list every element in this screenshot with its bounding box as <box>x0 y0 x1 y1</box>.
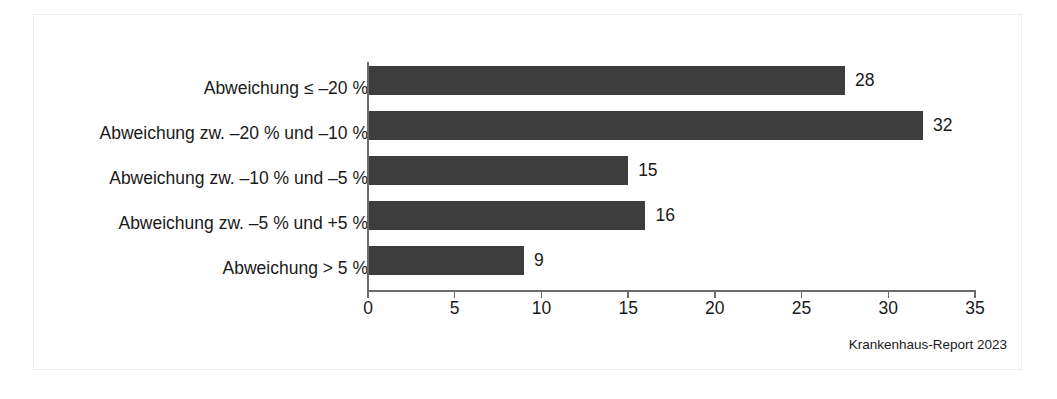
attribution-text: Krankenhaus-Report 2023 <box>849 338 1007 352</box>
x-tick-label-15: 15 <box>608 300 648 318</box>
x-tick-label-30: 30 <box>868 300 908 318</box>
x-axis-line <box>367 290 976 292</box>
category-label-1: Abweichung zw. –20 % und –10 % <box>99 125 368 143</box>
x-tick-30 <box>888 290 890 298</box>
x-tick-10 <box>541 290 543 298</box>
x-tick-25 <box>801 290 803 298</box>
x-tick-20 <box>714 290 716 298</box>
x-tick-label-10: 10 <box>521 300 561 318</box>
category-label-0: Abweichung ≤ –20 % <box>204 80 368 98</box>
category-label-2: Abweichung zw. –10 % und –5 % <box>109 170 368 188</box>
x-tick-label-20: 20 <box>695 300 735 318</box>
x-tick-label-35: 35 <box>955 300 995 318</box>
x-tick-label-0: 0 <box>348 300 388 318</box>
bar-1 <box>368 111 923 140</box>
bar-4 <box>368 246 524 275</box>
bar-value-1: 32 <box>933 117 952 135</box>
x-tick-5 <box>454 290 456 298</box>
bar-value-3: 16 <box>655 207 674 225</box>
bar-2 <box>368 156 628 185</box>
category-label-4: Abweichung > 5 % <box>223 260 368 278</box>
x-tick-35 <box>974 290 976 298</box>
bar-0 <box>368 66 845 95</box>
bar-value-4: 9 <box>534 252 544 270</box>
y-axis-line <box>367 62 369 291</box>
x-tick-0 <box>367 290 369 298</box>
x-tick-label-25: 25 <box>782 300 822 318</box>
figure-root: Abweichung ≤ –20 % Abweichung zw. –20 % … <box>0 0 1057 399</box>
bar-chart: Abweichung ≤ –20 % Abweichung zw. –20 % … <box>0 0 1057 399</box>
bar-value-2: 15 <box>638 162 657 180</box>
category-label-3: Abweichung zw. –5 % und +5 % <box>118 215 368 233</box>
x-tick-15 <box>627 290 629 298</box>
x-tick-label-5: 5 <box>435 300 475 318</box>
bar-value-0: 28 <box>855 72 874 90</box>
bar-3 <box>368 201 645 230</box>
